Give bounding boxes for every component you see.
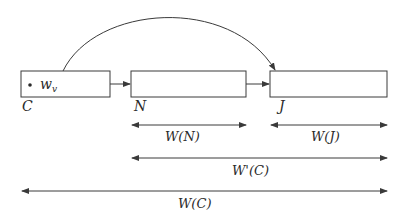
node-n-box xyxy=(131,71,246,97)
node-c: wv xyxy=(21,71,110,97)
node-j-box xyxy=(270,71,387,97)
node-c-label: C xyxy=(22,98,33,114)
node-c-box xyxy=(21,71,110,97)
measure-w-j-label: W(J) xyxy=(311,129,340,144)
measure-w-c-label: W(C) xyxy=(178,196,211,211)
arc-edge-c-to-j xyxy=(63,18,275,71)
node-n-label: N xyxy=(133,98,147,114)
measure-w-n-label: W(N) xyxy=(165,129,200,144)
node-j-label: J xyxy=(276,98,286,114)
linked-structure-diagram: wv C N J W(N) W(J) W'(C) W(C) xyxy=(0,0,410,223)
measure-w-prime-c-label: W'(C) xyxy=(232,163,269,178)
bullet-dot-icon xyxy=(28,83,32,87)
